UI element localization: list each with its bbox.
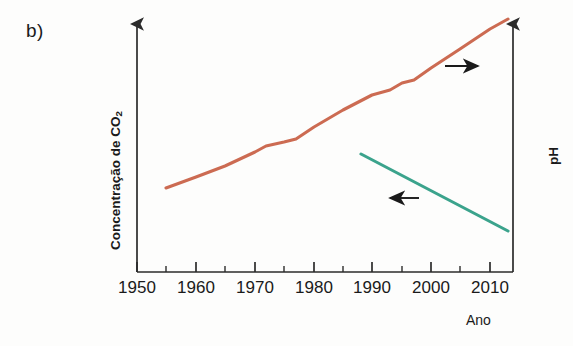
chart-figure: b) Concentração de CO2 pH Ano <box>0 0 573 346</box>
x-tick-label-1970: 1970 <box>236 278 274 298</box>
x-tick-label-1960: 1960 <box>177 278 215 298</box>
x-tick-label-1980: 1980 <box>295 278 333 298</box>
x-tick-label-1990: 1990 <box>353 278 391 298</box>
ph-curve <box>361 154 508 231</box>
x-tick-label-2010: 2010 <box>471 278 509 298</box>
x-tick-label-1950: 1950 <box>118 278 156 298</box>
x-tick-label-2000: 2000 <box>412 278 450 298</box>
x-axis-minor-ticks <box>166 266 460 272</box>
co2-concentration-curve <box>166 19 508 188</box>
x-axis-major-ticks <box>137 262 490 272</box>
